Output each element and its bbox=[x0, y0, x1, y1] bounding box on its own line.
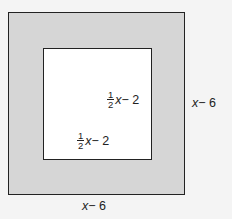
expression-rest: − 6 bbox=[198, 96, 216, 110]
inner-right-label: 1 2 x − 2 bbox=[107, 90, 139, 109]
fraction: 1 2 bbox=[107, 90, 114, 109]
outer-right-label: x − 6 bbox=[192, 96, 216, 110]
expression-rest: − 2 bbox=[122, 93, 140, 107]
expression-rest: − 2 bbox=[92, 134, 110, 148]
denominator: 2 bbox=[107, 100, 114, 109]
inner-bottom-label: 1 2 x − 2 bbox=[77, 131, 109, 150]
expression-rest: − 6 bbox=[88, 199, 106, 213]
denominator: 2 bbox=[77, 141, 84, 150]
fraction: 1 2 bbox=[77, 131, 84, 150]
outer-bottom-label: x − 6 bbox=[82, 199, 106, 213]
